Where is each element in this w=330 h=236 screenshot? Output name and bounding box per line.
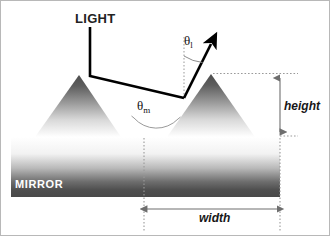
theta-l-arc — [184, 56, 203, 63]
theta-l-label: θl — [184, 34, 193, 50]
left-prism — [35, 75, 121, 137]
theta-l-subscript: l — [190, 40, 193, 50]
light-label: LIGHT — [75, 12, 116, 25]
right-prism — [167, 74, 255, 137]
theta-m-label: θm — [137, 99, 150, 115]
theta-m-subscript: m — [143, 105, 150, 115]
width-label: width — [199, 212, 230, 224]
mirror-label: MIRROR — [15, 179, 63, 190]
incident-ray — [90, 27, 184, 98]
theta-m-arc — [134, 118, 178, 128]
diagram-canvas: LIGHT MIRROR height width θl θm — [0, 0, 330, 236]
height-label: height — [284, 100, 320, 112]
diagram-graphics — [1, 1, 330, 236]
theta-m-arc-tick-left — [132, 116, 135, 118]
